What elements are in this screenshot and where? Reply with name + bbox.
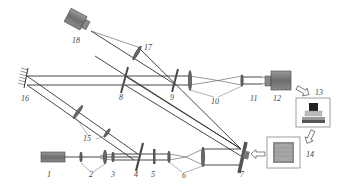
label-6: 6 bbox=[182, 171, 186, 180]
display-14 bbox=[267, 137, 300, 168]
label-9: 9 bbox=[170, 93, 174, 102]
diagonal-beam-to-18 bbox=[91, 31, 241, 149]
label-10: 10 bbox=[211, 97, 219, 106]
label-16: 16 bbox=[21, 94, 29, 103]
optical-diagram: 1 2 3 4 5 6 7 8 9 10 11 12 13 14 15 16 1… bbox=[0, 0, 347, 186]
label-8: 8 bbox=[119, 93, 123, 102]
upper-beam-path bbox=[27, 76, 270, 85]
label-13: 13 bbox=[315, 88, 323, 97]
lens-17 bbox=[132, 45, 143, 60]
slm-7 bbox=[239, 142, 250, 173]
laser-1 bbox=[41, 152, 65, 162]
lens-10b bbox=[241, 75, 243, 87]
arrow-13-to-14 bbox=[303, 129, 317, 145]
camera-18 bbox=[64, 8, 91, 32]
label-1: 1 bbox=[47, 170, 51, 179]
lens-2a bbox=[80, 152, 82, 162]
label-14: 14 bbox=[306, 150, 314, 159]
lens-6b bbox=[201, 147, 204, 167]
computer-13 bbox=[296, 98, 330, 127]
lens-2b bbox=[103, 150, 106, 164]
label-11: 11 bbox=[250, 94, 257, 103]
lens-3 bbox=[112, 152, 114, 162]
arrow-12-to-13 bbox=[295, 84, 312, 99]
arrow-14-to-7 bbox=[251, 150, 265, 159]
lens-10a bbox=[188, 71, 191, 91]
lens-6a bbox=[168, 151, 170, 163]
label-7: 7 bbox=[240, 170, 245, 179]
label-2: 2 bbox=[89, 170, 93, 179]
camera-12 bbox=[265, 71, 291, 90]
label-15: 15 bbox=[83, 134, 91, 143]
label-3: 3 bbox=[110, 170, 115, 179]
beam-splitter-8 bbox=[121, 67, 128, 93]
diagonal-beam-to-7 bbox=[95, 56, 241, 156]
lens-15a bbox=[72, 105, 84, 120]
label-5: 5 bbox=[151, 170, 155, 179]
label-18: 18 bbox=[72, 36, 80, 45]
label-17: 17 bbox=[144, 43, 153, 52]
element-5 bbox=[153, 149, 156, 164]
beam-splitter-9 bbox=[172, 69, 178, 92]
label-4: 4 bbox=[134, 170, 138, 179]
label-12: 12 bbox=[273, 94, 281, 103]
mirror-16 bbox=[18, 68, 28, 88]
